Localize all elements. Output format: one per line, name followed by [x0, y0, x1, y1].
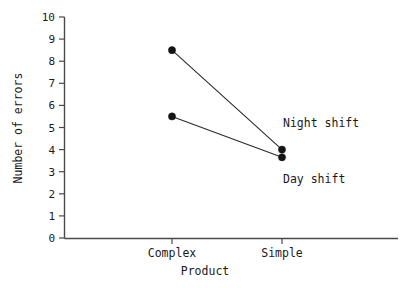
line-chart: 10 9 8 7 6 5 4 3 2 1 0 Complex Simple Pr… [0, 0, 402, 288]
x-axis-title: Product [181, 264, 229, 278]
series-line-night-shift [172, 50, 282, 149]
y-tick-label-7: 7 [48, 77, 55, 90]
legend-label-day-shift: Day shift [283, 172, 345, 186]
chart-canvas: 10 9 8 7 6 5 4 3 2 1 0 Complex Simple Pr… [0, 0, 402, 288]
y-tick-label-5: 5 [48, 122, 55, 135]
y-tick-label-8: 8 [48, 55, 55, 68]
series-line-day-shift [172, 116, 282, 157]
data-point-day-shift-complex [168, 113, 175, 120]
data-point-night-shift-simple [278, 146, 285, 153]
y-tick-label-0: 0 [48, 232, 55, 245]
y-tick-label-4: 4 [48, 144, 55, 157]
y-tick-label-9: 9 [48, 33, 55, 46]
y-tick-label-3: 3 [48, 166, 55, 179]
y-tick-label-1: 1 [48, 210, 55, 223]
data-point-day-shift-simple [278, 154, 285, 161]
legend-label-night-shift: Night shift [283, 116, 359, 130]
y-axis-title: Number of errors [11, 73, 25, 184]
x-tick-label-simple: Simple [261, 246, 303, 260]
y-tick-label-10: 10 [42, 11, 55, 24]
data-point-night-shift-complex [168, 47, 175, 54]
y-tick-label-2: 2 [48, 188, 55, 201]
y-tick-label-6: 6 [48, 99, 55, 112]
x-tick-label-complex: Complex [148, 246, 197, 260]
